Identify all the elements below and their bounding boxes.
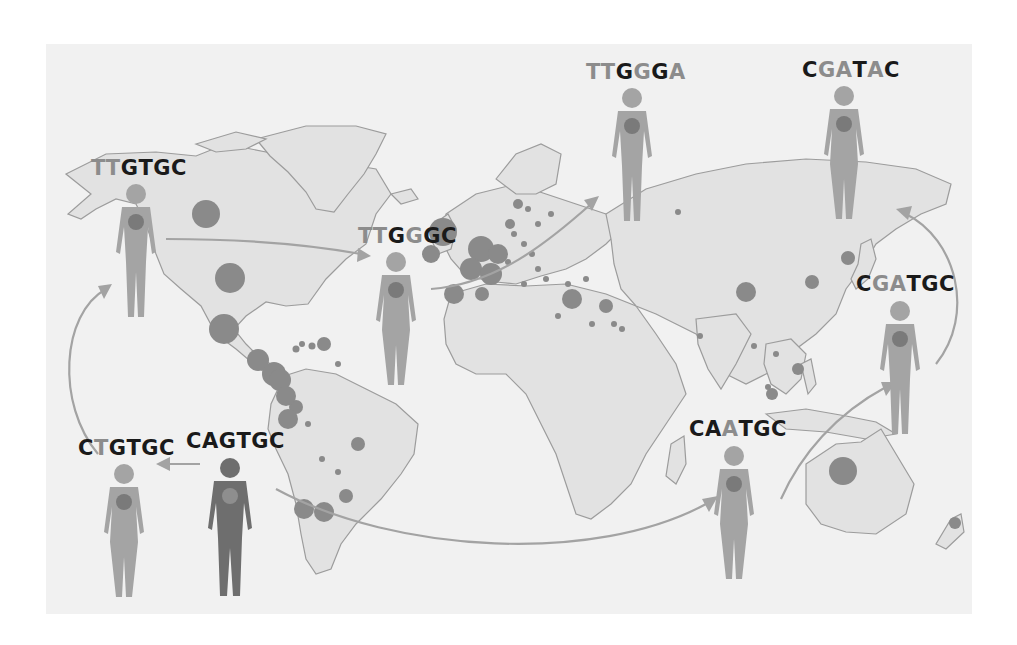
virus-icon xyxy=(388,282,404,298)
base: A xyxy=(722,417,739,441)
sequence-label-cgatgc: CGATGC xyxy=(856,272,955,296)
base: T xyxy=(373,224,388,248)
base: G xyxy=(818,58,836,82)
base: G xyxy=(141,436,159,460)
sequence-label-ttggga: TTGGGA xyxy=(586,60,686,84)
base: C xyxy=(884,58,900,82)
sequence-label-ctgtgc: CTGTGC xyxy=(78,436,175,460)
base: T xyxy=(358,224,373,248)
base: A xyxy=(867,58,884,82)
base: G xyxy=(921,272,939,296)
base: G xyxy=(405,224,423,248)
base: C xyxy=(441,224,457,248)
base: T xyxy=(852,58,867,82)
arctic-islands xyxy=(196,132,266,152)
virus-icon xyxy=(116,494,132,510)
virus-icon xyxy=(892,331,908,347)
base: G xyxy=(651,60,669,84)
sequence-label-cagtgc: CAGTGC xyxy=(186,429,285,453)
sequence-label-cgatac: CGATAC xyxy=(802,58,900,82)
base: T xyxy=(91,156,106,180)
base: C xyxy=(939,272,955,296)
base: C xyxy=(269,429,285,453)
base: C xyxy=(186,429,202,453)
base: G xyxy=(109,436,127,460)
base: T xyxy=(586,60,601,84)
base: A xyxy=(705,417,722,441)
base: G xyxy=(616,60,634,84)
base: T xyxy=(236,429,251,453)
person-female-icon xyxy=(706,444,762,584)
base: T xyxy=(106,156,121,180)
sequence-label-ttgggc: TTGGGC xyxy=(358,224,457,248)
base: C xyxy=(856,272,872,296)
base: A xyxy=(202,429,219,453)
person-female-icon xyxy=(816,84,872,224)
virus-icon xyxy=(726,476,742,492)
person-male-origin-icon xyxy=(202,456,258,601)
base: T xyxy=(906,272,921,296)
virus-icon xyxy=(128,214,144,230)
person-male-icon xyxy=(872,299,928,439)
sequence-label-ttgtgc: TTGTGC xyxy=(91,156,187,180)
base: G xyxy=(872,272,890,296)
base: G xyxy=(423,224,441,248)
person-female-icon xyxy=(368,250,424,390)
figure-panel: TTGTGC TTGGGC TTGGGA CGATAC CGATGC CAATG… xyxy=(46,44,972,614)
base: T xyxy=(738,417,753,441)
base: C xyxy=(78,436,94,460)
base: C xyxy=(171,156,187,180)
base: T xyxy=(138,156,153,180)
base: G xyxy=(219,429,237,453)
virus-icon xyxy=(836,116,852,132)
sequence-label-caatgc: CAATGC xyxy=(689,417,787,441)
virus-icon xyxy=(624,118,640,134)
base: T xyxy=(127,436,142,460)
base: G xyxy=(753,417,771,441)
iceland xyxy=(391,189,418,204)
madagascar xyxy=(666,436,686,484)
base: G xyxy=(388,224,406,248)
virus-icon xyxy=(222,488,238,504)
base: G xyxy=(251,429,269,453)
australia xyxy=(806,429,914,534)
person-male-icon xyxy=(108,182,164,322)
base: T xyxy=(94,436,109,460)
base: A xyxy=(669,60,686,84)
philippines xyxy=(801,359,816,394)
base: A xyxy=(836,58,853,82)
base: A xyxy=(890,272,907,296)
base: G xyxy=(121,156,139,180)
scandinavia xyxy=(496,144,561,194)
base: C xyxy=(802,58,818,82)
base: T xyxy=(601,60,616,84)
person-female-icon xyxy=(96,462,152,602)
base: C xyxy=(771,417,787,441)
base: C xyxy=(689,417,705,441)
new-zealand xyxy=(936,514,964,549)
base: G xyxy=(153,156,171,180)
base: C xyxy=(159,436,175,460)
person-male-icon xyxy=(604,86,660,226)
africa xyxy=(444,284,686,519)
base: G xyxy=(633,60,651,84)
